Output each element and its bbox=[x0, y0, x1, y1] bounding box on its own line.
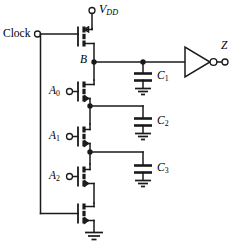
capacitor-c2-label: C2 bbox=[157, 115, 169, 128]
a2-label-main: A bbox=[49, 169, 56, 181]
clock-label: Clock bbox=[3, 28, 30, 40]
a0-label-main: A bbox=[49, 84, 56, 96]
vdd-label: VDD bbox=[99, 3, 118, 17]
nmos-a0-symbol bbox=[67, 80, 95, 106]
a0-label-subscript: 0 bbox=[56, 89, 60, 98]
nmos-a2-symbol bbox=[67, 164, 95, 203]
capacitor-c3-label: C3 bbox=[157, 162, 169, 175]
capacitor-c3-symbol bbox=[134, 152, 152, 187]
capacitor-c1-symbol bbox=[134, 62, 152, 95]
a0-terminal-circle[interactable] bbox=[67, 89, 73, 95]
node-c2-net bbox=[87, 103, 143, 124]
a1-label-subscript: 1 bbox=[56, 134, 60, 143]
ground-c3-symbol bbox=[135, 181, 151, 187]
node-b-net bbox=[91, 59, 185, 80]
c3-label-subscript: 3 bbox=[165, 166, 169, 175]
input-a0-label: A0 bbox=[49, 85, 60, 98]
vdd-terminal-circle[interactable] bbox=[89, 8, 95, 14]
ground-c1-symbol bbox=[135, 89, 151, 95]
c3-label-main: C bbox=[157, 161, 165, 173]
capacitor-c2-symbol bbox=[134, 106, 152, 140]
input-a2-label: A2 bbox=[49, 170, 60, 183]
output-z-label: Z bbox=[221, 40, 227, 52]
node-c3-net bbox=[87, 149, 143, 164]
clock-terminal-circle[interactable] bbox=[35, 31, 41, 37]
a2-terminal-circle[interactable] bbox=[67, 174, 73, 180]
clock-net bbox=[35, 31, 79, 214]
capacitor-c1-label: C1 bbox=[157, 70, 169, 83]
output-inverter-symbol bbox=[185, 47, 228, 77]
circuit-schematic-figure: .w { stroke:#1a1a1a; stroke-width:1.5; f… bbox=[0, 0, 235, 250]
input-a1-label: A1 bbox=[49, 130, 60, 143]
vdd-net bbox=[89, 8, 95, 29]
c1-label-main: C bbox=[157, 69, 165, 81]
node-b-label: B bbox=[80, 54, 87, 66]
schematic-canvas: .w { stroke:#1a1a1a; stroke-width:1.5; f… bbox=[0, 0, 235, 250]
a1-terminal-circle[interactable] bbox=[67, 134, 73, 140]
c2-label-main: C bbox=[157, 114, 165, 126]
a2-label-subscript: 2 bbox=[56, 174, 60, 183]
c2-label-subscript: 2 bbox=[165, 119, 169, 128]
vdd-label-subscript: DD bbox=[106, 8, 118, 17]
ground-c2-symbol bbox=[135, 134, 151, 140]
inverter-bubble-icon bbox=[210, 59, 217, 66]
a1-label-main: A bbox=[49, 129, 56, 141]
c1-label-subscript: 1 bbox=[165, 74, 169, 83]
nmos-evaluate-symbol bbox=[78, 203, 103, 240]
z-terminal-circle[interactable] bbox=[222, 59, 228, 65]
nmos-a1-symbol bbox=[67, 124, 91, 152]
ground-source-symbol bbox=[85, 233, 103, 240]
